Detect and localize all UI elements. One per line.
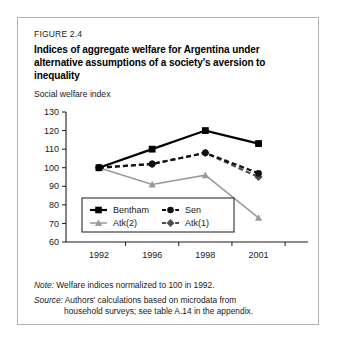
data-point	[202, 149, 209, 156]
data-point	[95, 207, 102, 214]
y-tick-label: 90	[49, 181, 59, 191]
figure-number: FIGURE 2.4	[34, 29, 82, 39]
note-label: Note:	[34, 280, 54, 290]
series-line	[99, 153, 259, 173]
legend-label: Atk(1)	[185, 218, 209, 228]
data-point	[167, 207, 174, 214]
chart-canvas: 607080901001101201301992199619982001Bent…	[24, 102, 314, 274]
source-line: Source: Authors' calculations based on m…	[34, 295, 308, 318]
figure-title: Indices of aggregate welfare for Argenti…	[34, 43, 306, 82]
figure-frame: FIGURE 2.4 Indices of aggregate welfare …	[17, 17, 319, 325]
y-tick-label: 60	[49, 237, 59, 247]
figure-notes: Note: Welfare indices normalized to 100 …	[34, 280, 308, 321]
x-tick-label: 1998	[195, 250, 215, 260]
y-axis-title: Social welfare index	[34, 89, 110, 99]
series-atk1	[95, 149, 263, 181]
y-tick-label: 80	[49, 200, 59, 210]
data-point	[96, 164, 103, 171]
data-point	[149, 161, 156, 168]
y-tick-label: 130	[44, 107, 59, 117]
note-text: Welfare indices normalized to 100 in 199…	[56, 280, 214, 290]
legend-label: Atk(2)	[113, 218, 137, 228]
legend-box	[82, 198, 234, 232]
y-tick-label: 120	[44, 126, 59, 136]
data-point	[255, 170, 262, 177]
line-chart: 607080901001101201301992199619982001Bent…	[24, 102, 314, 274]
series-line	[99, 131, 259, 168]
source-text: Authors' calculations based on microdata…	[65, 295, 237, 305]
legend-label: Sen	[185, 205, 201, 215]
y-tick-label: 100	[44, 163, 59, 173]
source-text-cont: household surveys; see table A.14 in the…	[34, 306, 308, 318]
note-line: Note: Welfare indices normalized to 100 …	[34, 280, 308, 292]
series-bentham	[96, 127, 262, 171]
legend-label: Bentham	[113, 205, 149, 215]
x-tick-label: 1996	[142, 250, 162, 260]
chart-legend: BenthamSenAtk(2)Atk(1)	[82, 198, 234, 232]
y-tick-label: 110	[45, 144, 59, 154]
series-sen	[96, 149, 262, 176]
data-point	[255, 140, 262, 147]
source-label: Source:	[34, 295, 63, 305]
data-point	[149, 146, 156, 153]
x-tick-label: 2001	[249, 250, 269, 260]
data-point	[202, 127, 209, 134]
x-tick-label: 1992	[89, 250, 109, 260]
y-tick-label: 70	[49, 219, 59, 229]
